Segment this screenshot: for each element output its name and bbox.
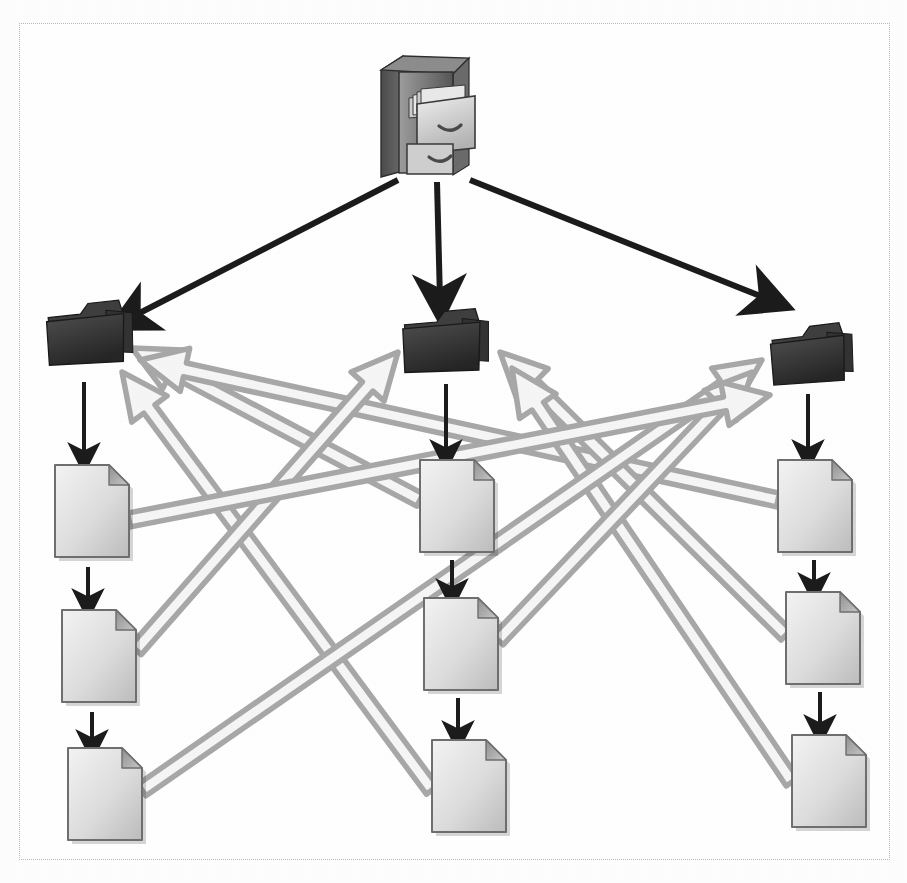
black-arrow-cabinet-to-folder-left [130, 180, 398, 318]
folder-left[interactable] [43, 299, 137, 369]
document-left-2[interactable] [62, 610, 140, 706]
gray-cross-reference-edges [104, 329, 810, 809]
document-fold-corner [116, 610, 136, 630]
document-right-1[interactable] [778, 460, 856, 556]
diagram-page [0, 0, 907, 883]
document-middle-1[interactable] [420, 460, 498, 556]
document-fold-corner [478, 598, 498, 618]
document-middle-3[interactable] [432, 740, 510, 836]
document-fold-corner [474, 460, 494, 480]
document-fold-corner [122, 748, 142, 768]
folder-front [769, 335, 849, 389]
document-middle-2[interactable] [424, 598, 502, 694]
file-cabinet-icon[interactable] [381, 56, 475, 177]
file-cabinet[interactable] [381, 56, 475, 177]
folder-front [45, 314, 129, 370]
document-fold-corner [846, 735, 866, 755]
folder-front [401, 322, 484, 376]
document-fold-corner [840, 592, 860, 612]
document-right-2[interactable] [786, 592, 864, 688]
document-right-3[interactable] [792, 735, 870, 831]
document-fold-corner [832, 460, 852, 480]
diagram-canvas [0, 0, 907, 883]
folder-middle[interactable] [400, 308, 493, 377]
black-arrow-cabinet-to-folder-middle [437, 182, 440, 300]
document-fold-corner [486, 740, 506, 760]
folder-right[interactable] [767, 321, 857, 388]
document-left-1[interactable] [55, 465, 133, 561]
document-left-3[interactable] [68, 748, 146, 844]
document-fold-corner [109, 465, 129, 485]
black-distribution-edges [130, 180, 770, 318]
black-arrow-cabinet-to-folder-right [470, 180, 770, 300]
